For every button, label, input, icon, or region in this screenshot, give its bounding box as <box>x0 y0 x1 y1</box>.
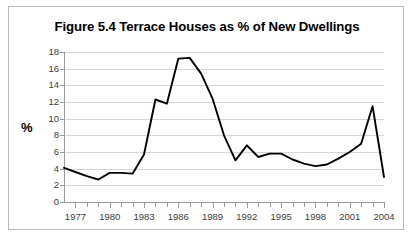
x-tick-mark-major <box>178 203 179 208</box>
y-tick-label: 6 <box>37 147 59 157</box>
y-tick-mark <box>60 52 64 53</box>
y-tick-label: 0 <box>37 197 59 207</box>
x-tick-label: 1989 <box>202 211 223 222</box>
y-tick-label: 8 <box>37 130 59 140</box>
plot-area: 1977198019831986198919921995199820012004 <box>64 46 384 202</box>
x-tick-mark-major <box>281 203 282 208</box>
x-tick-label: 1983 <box>133 211 154 222</box>
x-tick-mark-major <box>110 203 111 208</box>
x-tick-label: 1986 <box>168 211 189 222</box>
x-tick-mark-minor <box>87 203 88 207</box>
x-tick-mark-minor <box>98 203 99 207</box>
y-tick-label: 14 <box>37 80 59 90</box>
figure-container: Figure 5.4 Terrace Houses as % of New Dw… <box>8 6 404 230</box>
line-series <box>64 52 384 202</box>
series-polyline <box>64 58 384 180</box>
x-tick-label: 1998 <box>305 211 326 222</box>
x-tick-label: 1977 <box>65 211 86 222</box>
y-tick-label: 4 <box>37 164 59 174</box>
x-tick-mark-minor <box>224 203 225 207</box>
x-tick-mark-minor <box>373 203 374 207</box>
y-tick-label: 12 <box>37 97 59 107</box>
x-tick-label: 2004 <box>373 211 394 222</box>
x-tick-mark-minor <box>155 203 156 207</box>
x-tick-mark-major <box>315 203 316 208</box>
y-axis-tick-labels: 024681012141618 <box>35 46 59 206</box>
x-tick-mark-major <box>75 203 76 208</box>
x-tick-mark-minor <box>304 203 305 207</box>
x-tick-mark-major <box>247 203 248 208</box>
x-tick-label: 1980 <box>99 211 120 222</box>
x-tick-mark-major <box>144 203 145 208</box>
x-tick-mark-minor <box>293 203 294 207</box>
x-tick-mark-minor <box>121 203 122 207</box>
x-tick-mark-minor <box>327 203 328 207</box>
chart-title: Figure 5.4 Terrace Houses as % of New Dw… <box>9 19 405 34</box>
x-tick-mark-major <box>350 203 351 208</box>
x-tick-mark-minor <box>361 203 362 207</box>
y-tick-mark <box>60 135 64 136</box>
y-tick-mark <box>60 119 64 120</box>
y-tick-mark <box>60 152 64 153</box>
x-tick-label: 1995 <box>271 211 292 222</box>
x-tick-mark-minor <box>201 203 202 207</box>
y-tick-mark <box>60 85 64 86</box>
x-tick-mark-minor <box>338 203 339 207</box>
y-tick-mark <box>60 202 64 203</box>
x-tick-mark-minor <box>258 203 259 207</box>
y-axis-title: % <box>21 120 33 135</box>
x-tick-label: 2001 <box>339 211 360 222</box>
y-tick-mark <box>60 69 64 70</box>
y-tick-mark <box>60 169 64 170</box>
y-tick-label: 16 <box>37 64 59 74</box>
y-tick-mark <box>60 185 64 186</box>
x-tick-mark-minor <box>167 203 168 207</box>
x-tick-label: 1992 <box>236 211 257 222</box>
y-tick-label: 18 <box>37 47 59 57</box>
y-tick-label: 10 <box>37 114 59 124</box>
y-tick-label: 2 <box>37 180 59 190</box>
x-tick-mark-minor <box>270 203 271 207</box>
y-tick-mark <box>60 102 64 103</box>
x-tick-mark-minor <box>133 203 134 207</box>
x-tick-mark-minor <box>190 203 191 207</box>
x-tick-mark-major <box>384 203 385 208</box>
x-tick-mark-minor <box>235 203 236 207</box>
x-tick-mark-major <box>213 203 214 208</box>
